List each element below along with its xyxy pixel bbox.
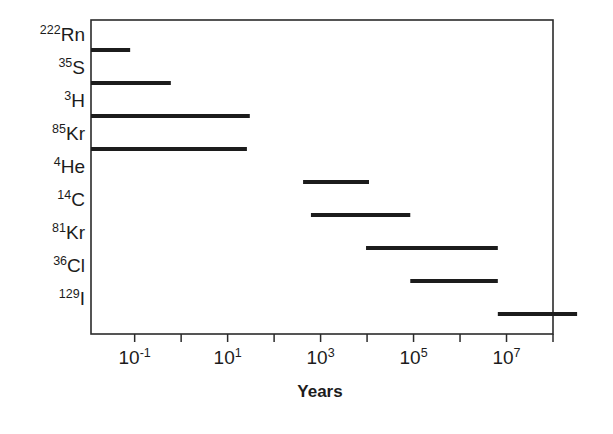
isotope-element-symbol: S [72,57,85,78]
isotope-mass-number: 36 [53,254,67,268]
isotope-element-symbol: H [71,90,85,111]
isotope-mass-number: 129 [59,287,80,301]
isotope-mass-number: 81 [52,221,66,235]
tick-base: 10 [214,347,235,368]
isotope-mass-number: 3 [64,89,71,103]
tick-exponent: -1 [140,346,151,360]
isotope-mass-number: 14 [57,188,71,202]
figure-root: 222Rn35S3H85Kr4He14C81Kr36Cl129I 10-1101… [0,0,613,434]
tick-exponent: 1 [235,346,242,360]
isotope-mass-number: 35 [58,56,72,70]
tick-exponent: 5 [421,346,428,360]
tick-exponent: 7 [514,346,521,360]
isotope-mass-number: 4 [54,155,61,169]
isotope-element-symbol: Cl [67,255,85,276]
tick-base: 10 [492,347,513,368]
isotope-mass-number: 222 [40,23,61,37]
isotope-mass-number: 85 [52,122,66,136]
isotope-element-symbol: Kr [66,222,86,243]
x-axis-title: Years [297,382,342,401]
isotope-element-symbol: He [61,156,85,177]
isotope-element-symbol: Kr [66,123,86,144]
isotope-dating-range-chart: 222Rn35S3H85Kr4He14C81Kr36Cl129I 10-1101… [0,0,613,434]
tick-base: 10 [400,347,421,368]
tick-base: 10 [119,347,140,368]
isotope-element-symbol: C [71,189,85,210]
isotope-element-symbol: Rn [61,24,85,45]
tick-base: 10 [307,347,328,368]
chart-background [0,0,613,434]
tick-exponent: 3 [328,346,335,360]
isotope-element-symbol: I [80,288,85,309]
